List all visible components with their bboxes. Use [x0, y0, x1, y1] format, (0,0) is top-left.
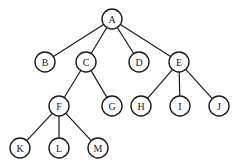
- node-e: E: [169, 52, 189, 72]
- node-label: B: [42, 57, 49, 68]
- tree-diagram: ABCDEFGHIJKLM: [0, 0, 237, 164]
- node-g: G: [102, 96, 122, 116]
- node-label: F: [56, 101, 62, 112]
- node-c: C: [76, 52, 96, 72]
- tree-edges: [27, 24, 212, 140]
- node-label: D: [135, 57, 142, 68]
- node-label: I: [178, 101, 181, 112]
- node-label: H: [137, 101, 144, 112]
- node-m: M: [88, 138, 108, 158]
- edge-f-k: [27, 113, 52, 140]
- edge-c-g: [91, 71, 107, 98]
- node-j: J: [209, 96, 229, 116]
- node-i: I: [170, 96, 190, 116]
- node-label: G: [108, 101, 115, 112]
- node-label: J: [217, 101, 221, 112]
- node-label: E: [176, 57, 182, 68]
- node-label: M: [94, 143, 103, 154]
- node-d: D: [129, 52, 149, 72]
- node-label: L: [56, 143, 62, 154]
- edge-a-e: [120, 24, 170, 56]
- node-f: F: [49, 96, 69, 116]
- edge-e-h: [148, 70, 173, 99]
- node-label: A: [108, 14, 116, 25]
- node-l: L: [49, 138, 69, 158]
- node-label: K: [16, 143, 24, 154]
- node-h: H: [131, 96, 151, 116]
- edge-c-f: [64, 71, 81, 98]
- node-b: B: [35, 52, 55, 72]
- node-k: K: [10, 138, 30, 158]
- edge-f-m: [66, 113, 91, 140]
- edge-a-b: [53, 24, 103, 56]
- node-label: C: [83, 57, 90, 68]
- edge-e-j: [186, 69, 213, 98]
- edge-e-i: [179, 72, 180, 96]
- node-a: A: [102, 9, 122, 29]
